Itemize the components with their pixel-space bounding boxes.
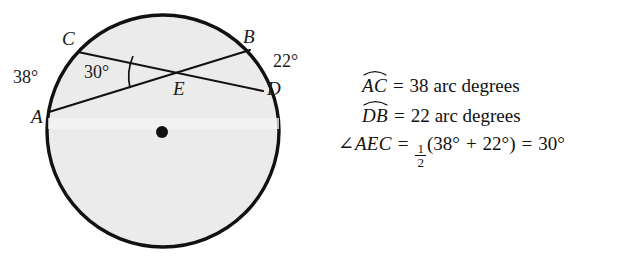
arc-measure-label-38: 38° bbox=[13, 68, 38, 86]
fraction-numerator: 1 bbox=[415, 142, 426, 155]
angle-measure-label-30: 30° bbox=[84, 63, 109, 81]
angle-symbol-icon: ∠ bbox=[338, 134, 354, 153]
arc-measure-label-22: 22° bbox=[273, 52, 298, 70]
fraction-denominator: 2 bbox=[415, 155, 426, 169]
point-label-d: D bbox=[267, 79, 281, 98]
close-paren: ) bbox=[509, 134, 515, 153]
term-22-deg: 22° bbox=[483, 134, 510, 153]
arc-term-db: DB bbox=[362, 104, 388, 125]
fraction-one-half: 1 2 bbox=[415, 142, 426, 169]
equals-sign-1: = bbox=[398, 134, 409, 153]
geometry-figure-page: C B A D E 38° 30° 22° AC = 38 arc degree… bbox=[0, 0, 640, 260]
arc-overbar-icon bbox=[363, 69, 387, 76]
arc-db-units: arc degrees bbox=[435, 106, 521, 125]
term-38-deg: 38° bbox=[433, 134, 460, 153]
point-label-a: A bbox=[31, 107, 43, 126]
point-label-c: C bbox=[62, 29, 75, 48]
equation-line-arc-db: DB = 22 arc degrees bbox=[338, 104, 638, 125]
arc-term-ac: AC bbox=[362, 74, 387, 95]
arc-term-ac-text: AC bbox=[362, 75, 387, 96]
equation-line-arc-ac: AC = 38 arc degrees bbox=[338, 74, 638, 95]
circle-diagram-svg bbox=[0, 0, 330, 260]
arc-overbar-icon bbox=[363, 99, 388, 106]
arc-db-value: 22 bbox=[411, 106, 430, 125]
point-label-e: E bbox=[173, 79, 185, 98]
arc-term-db-text: DB bbox=[362, 105, 388, 126]
equation-block: AC = 38 arc degrees DB = 22 arc degrees … bbox=[338, 74, 638, 175]
arc-ac-units: arc degrees bbox=[434, 76, 520, 95]
point-label-b: B bbox=[243, 27, 255, 46]
equation-line-angle-aec: ∠ AEC = 1 2 ( 38° + 22° ) = 30° bbox=[338, 134, 638, 166]
circle-diagram: C B A D E 38° 30° 22° bbox=[0, 0, 330, 260]
equals-sign: = bbox=[393, 76, 404, 95]
angle-result-30-deg: 30° bbox=[538, 134, 565, 153]
angle-name-aec: AEC bbox=[355, 134, 392, 153]
equals-sign-2: = bbox=[522, 134, 533, 153]
center-dot bbox=[156, 126, 168, 138]
arc-ac-value: 38 bbox=[410, 76, 429, 95]
equals-sign: = bbox=[394, 106, 405, 125]
plus-sign: + bbox=[466, 134, 477, 153]
